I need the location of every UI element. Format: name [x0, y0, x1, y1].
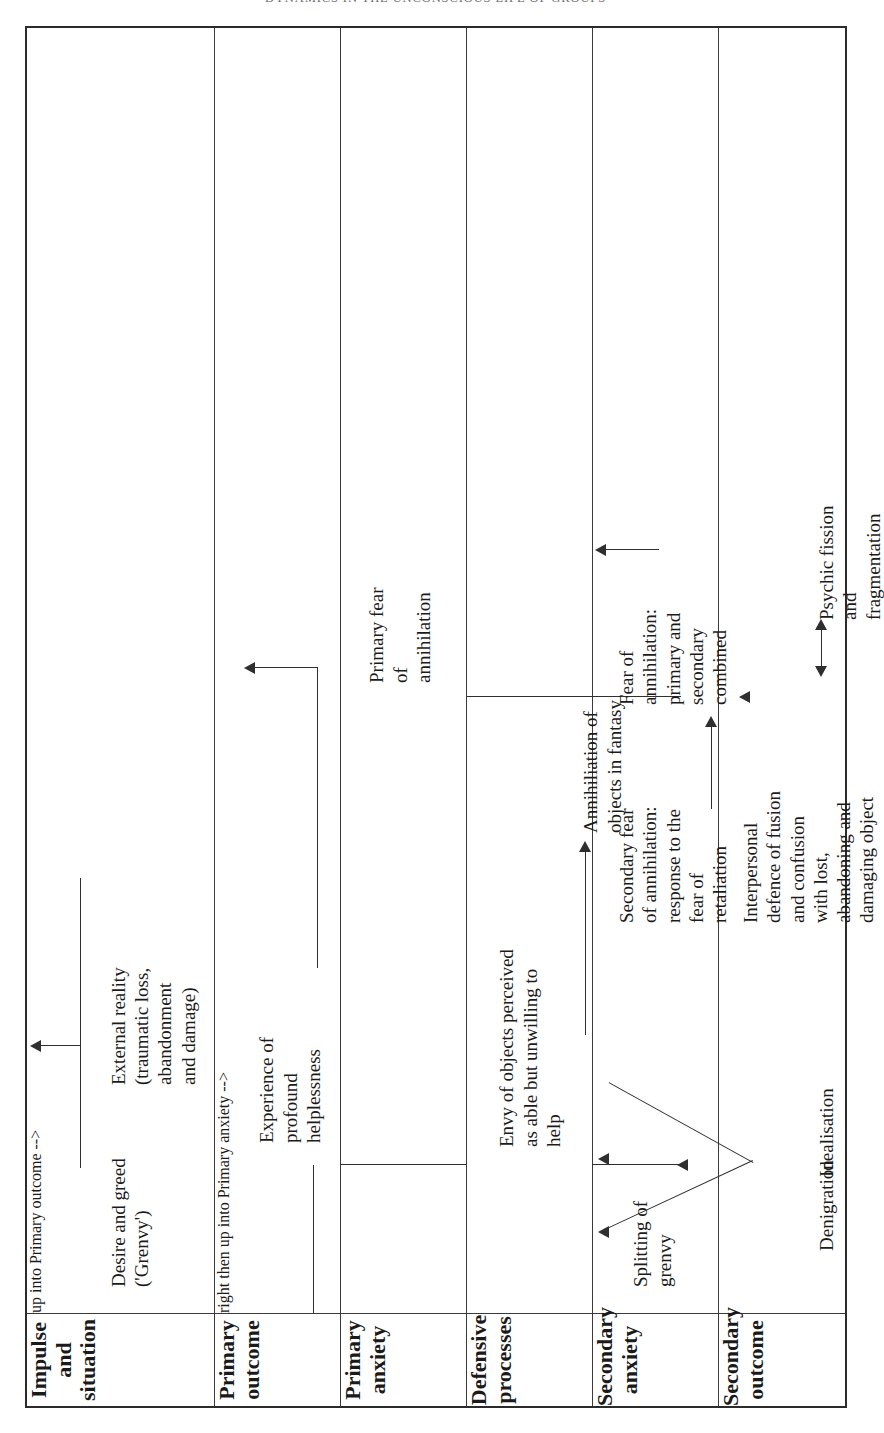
connector-helplessness-horizontal [317, 668, 318, 968]
arrowhead-left-fusion [815, 666, 827, 677]
cell-psychic-fission-and-fragmentation: Psychic fission and fragmentation [815, 505, 884, 620]
arrowhead-up-to-idealisation [598, 1153, 609, 1165]
arrowhead-up-to-psychic-fission [595, 544, 606, 556]
cell-secondary-fear-of-annihilation: Secondary fear of annihilation: response… [615, 806, 731, 923]
arrowhead-right-fission [815, 619, 827, 630]
row-header-secondary-anxiety: Secondary anxiety [592, 1313, 718, 1407]
table-row: Impulse and situation Desire and greed (… [26, 27, 215, 1407]
row-header-defensive-processes: Defensive processes [466, 1313, 592, 1407]
connector-envy-to-annihilation [585, 850, 586, 1035]
table-row: Defensive processes Splitting of grenvy … [466, 27, 592, 1407]
row-body-secondary-outcome: Denigration Idealisation Interpersonal d… [718, 27, 845, 1314]
row-body-secondary-anxiety: Secondary fear of annihilation: response… [592, 27, 718, 1314]
table-row: Secondary outcome Denigration Idealisati… [718, 27, 845, 1407]
connector-stub-from-impulse [313, 1165, 314, 1313]
cell-external-reality: External reality (traumatic loss, abando… [107, 967, 200, 1085]
row-header-primary-outcome: Primary outcome [214, 1313, 340, 1407]
table-row: Primary anxiety Primary fear of annihila… [340, 27, 466, 1407]
row-header-secondary-outcome: Secondary outcome [718, 1313, 845, 1407]
arrowhead-up-helplessness-to-primary-anxiety [244, 662, 255, 674]
row-body-primary-outcome: Experience of profound helplessness righ… [214, 27, 340, 1314]
table-row: Secondary anxiety Secondary fear of anni… [592, 27, 718, 1407]
connector-secondary-fear-to-combined [711, 725, 712, 809]
connector-combined-to-psychic-fission [605, 549, 659, 550]
arrowhead-up-impulse-to-primary-outcome [30, 1040, 41, 1052]
cell-desire-and-greed: Desire and greed ('Grenvy') [107, 1158, 153, 1287]
double-arrow-shaft [821, 628, 822, 666]
cell-idealisation: Idealisation [815, 1088, 838, 1177]
cell-envy-of-objects: Envy of objects perceived as able but un… [495, 949, 565, 1147]
cell-fear-of-annihilation-combined: Fear of annihilation: primary and second… [615, 608, 731, 704]
arrowhead-up-to-denigration [598, 1226, 609, 1238]
table-row: Primary outcome Experience of profound h… [214, 27, 340, 1407]
row-body-primary-anxiety: Primary fear of annihilation [340, 27, 466, 1314]
rotated-table-figure: Impulse and situation Desire and greed (… [25, 26, 847, 1408]
row-body-impulse-and-situation: Desire and greed ('Grenvy') External rea… [26, 27, 215, 1314]
psychodynamic-process-table: Impulse and situation Desire and greed (… [25, 26, 847, 1408]
connector-impulse-vertical [41, 1045, 81, 1046]
connector-impulse-horizontal [80, 878, 81, 1168]
arrowhead-right-secondary-fear-to-combined [705, 716, 717, 727]
row-body-defensive-processes: Splitting of grenvy Envy of objects perc… [466, 27, 592, 1314]
cell-experience-of-profound-helplessness: Experience of profound helplessness [255, 1036, 325, 1142]
cell-primary-fear-of-annihilation: Primary fear of annihilation [365, 587, 435, 682]
row-header-impulse-and-situation: Impulse and situation [26, 1313, 215, 1407]
connector-riser-to-defensive-processes [341, 1164, 466, 1165]
running-head: DYNAMICS IN THE UNCONSCIOUS LIFE OF GROU… [0, 0, 871, 2]
connector-helplessness-vertical [255, 667, 318, 668]
arrowhead-right-envy-to-annihilation [579, 841, 591, 852]
cell-interpersonal-defence-of-fusion: Interpersonal defence of fusion and conf… [739, 791, 878, 923]
row-header-primary-anxiety: Primary anxiety [340, 1313, 466, 1407]
